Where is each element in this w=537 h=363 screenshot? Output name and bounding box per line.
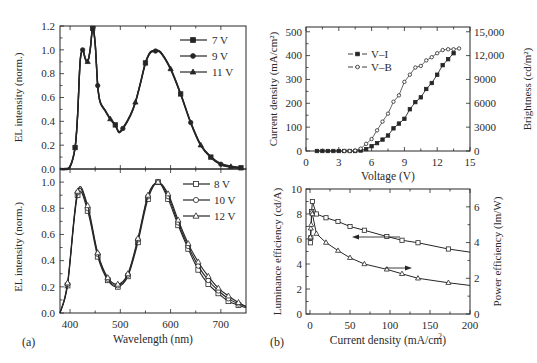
open-square-marker [336,219,340,223]
open-circle-marker [193,197,198,202]
y-tick-label: 2 [297,283,303,295]
open-square-marker [416,241,420,245]
x-axis-title: Current density (mA/cm) [330,334,446,347]
plot-frame [306,189,470,314]
y2-axis-title: Power efficiency (lm/W) [491,196,504,306]
y-axis-title: Current density (mA/cm²) [267,31,280,146]
filled-circle-marker [189,120,193,124]
open-circle-marker [414,66,417,69]
filled-square-marker [143,61,147,65]
open-square-marker [324,216,328,220]
x-tick-label: 3 [336,156,342,168]
open-square-marker [348,224,352,228]
x-tick-label: 100 [382,319,399,331]
y-tick-label: 500 [286,26,303,38]
x-tick-label: 12 [432,156,443,168]
open-triangle-marker [336,248,341,252]
y-tick-label: 1.0 [41,44,55,56]
filled-square-marker [178,92,182,96]
chart-el-spectra-8-10-12v: 4005006007000.00.20.40.60.81.0EL intensi… [12,169,246,346]
open-circle-marker [392,100,395,103]
y-tick-label: 0.2 [41,139,55,151]
legend-label: 12 V [214,210,236,222]
y2-tick-label: 3000 [474,121,497,133]
y-axis-title: EL intensity (norm.) [12,52,25,142]
filled-circle-marker [80,48,84,52]
y-tick-label: 0.0 [41,307,55,319]
open-circle-marker [364,142,367,145]
y-tick-label: 0.0 [41,163,55,175]
filled-square-marker [408,108,411,111]
filled-square-marker [375,141,378,144]
filled-circle-marker [153,49,157,53]
filled-square-marker [414,100,417,103]
open-square-marker [308,241,312,245]
filled-square-marker [386,134,389,137]
x-tick-label: 500 [112,318,129,330]
arrow-right-head-icon [405,266,412,271]
filled-square-marker [321,149,324,152]
y-tick-label: 4 [297,258,303,270]
filled-triangle-marker [133,99,138,104]
x-tick-label: 400 [62,318,79,330]
open-triangle-marker [314,231,319,235]
y2-tick-label: 6000 [474,97,497,109]
open-circle-marker [356,65,360,69]
x-tick-label: 150 [422,319,439,331]
arrow-left-head-icon [352,235,359,240]
chart-el-spectra-7-9-11v: 0.00.20.40.60.81.01.2EL intensity (norm.… [12,20,246,175]
x-tick-label: 15 [465,156,477,168]
open-square-marker [193,181,198,186]
open-circle-marker [419,64,422,67]
filled-circle-marker [96,83,100,87]
open-circle-marker [359,147,362,150]
filled-square-marker [441,63,444,66]
x-axis-title: Voltage (V) [361,170,415,183]
open-circle-marker [381,120,384,123]
filled-square-marker [113,123,117,127]
filled-square-marker [403,117,406,120]
chart-voltage-current-brightness: 036912150100200300400500030006000900012,… [267,26,534,183]
y-tick-label: 100 [286,121,303,133]
legend-label: V–B [371,61,392,73]
legend-label: 8 V [214,178,230,190]
y2-axis-title: Brightness (cd/m²) [521,47,534,130]
filled-square-marker [73,145,77,149]
filled-square-marker [332,149,335,152]
y-tick-label: 0.4 [41,254,55,266]
y-tick-label: 0.6 [41,228,55,240]
plot-frame [60,26,246,169]
y-axis-title: EL intensity (norm.) [12,202,25,292]
filled-square-marker [452,52,455,55]
open-square-marker [446,247,450,251]
open-circle-marker [452,48,455,51]
superscript-2: 2 [438,332,442,341]
open-circle-marker [386,112,389,115]
filled-square-marker [430,81,433,84]
y2-tick-label: 4 [474,236,480,248]
open-square-marker [400,238,404,242]
filled-circle-marker [121,126,125,130]
open-circle-marker [436,52,439,55]
y-axis-title: Luminance efficiency (cd/A) [271,187,284,315]
open-circle-marker [354,149,357,152]
open-triangle-marker [309,222,314,226]
x-tick-label: 50 [345,319,357,331]
open-circle-marker [457,47,460,50]
filled-square-marker [370,145,373,148]
y-tick-label: 0.8 [41,202,55,214]
y-tick-label: 6 [297,233,303,245]
filled-square-marker [419,96,422,99]
y-tick-label: 0.8 [41,67,55,79]
y-tick-label: 0 [297,145,303,157]
filled-circle-marker [191,54,196,59]
filled-square-marker [337,149,340,152]
y2-tick-label: 15,000 [474,26,505,38]
open-circle-marker [370,137,373,140]
filled-square-marker [446,57,449,60]
filled-square-marker [90,26,94,30]
filled-square-marker [425,87,428,90]
open-circle-marker [430,56,433,59]
y2-tick-label: 2 [474,272,480,284]
filled-square-marker [191,38,196,43]
